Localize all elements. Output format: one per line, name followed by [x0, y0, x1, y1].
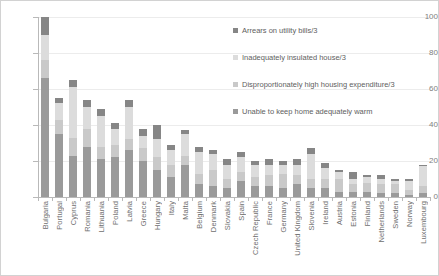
bar-segment [251, 177, 260, 186]
bar-segment [265, 165, 274, 176]
bar-segment [41, 78, 50, 197]
x-tick-label: Netherlands [377, 201, 386, 243]
bar-segment [195, 152, 204, 174]
y-tick-mark [33, 161, 38, 162]
legend-item[interactable]: Unable to keep home adequately warm [233, 108, 438, 116]
bar-segment [69, 87, 78, 137]
bar-segment [83, 147, 92, 197]
bar-segment [181, 134, 190, 156]
bar-germany [279, 161, 288, 197]
bar-segment [139, 161, 148, 197]
bar-segment [97, 109, 106, 116]
legend-item[interactable]: Inadequately insulated house/3 [233, 54, 438, 62]
y-tick-label: 20 [408, 157, 438, 165]
bar-segment [55, 134, 64, 197]
bar-united-kingdom [293, 159, 302, 197]
bar-segment [419, 166, 428, 186]
bar-segment [139, 129, 148, 136]
bar-segment [405, 181, 414, 190]
x-tick-label: Estonia [349, 201, 358, 227]
bar-segment [335, 172, 344, 179]
bar-segment [111, 129, 120, 145]
y-tick-label: 100 [408, 13, 438, 21]
x-tick-label: Ireland [321, 201, 330, 225]
bar-segment [153, 125, 162, 139]
bar-segment [167, 165, 176, 178]
bar-austria [335, 170, 344, 197]
bar-segment [349, 184, 358, 191]
bar-segment [279, 174, 288, 188]
bar-segment [293, 175, 302, 184]
x-tick-label: Slovakia [223, 201, 232, 230]
legend-label: Disproportionately high housing expendit… [242, 81, 395, 89]
bar-segment [111, 145, 120, 158]
x-tick-label: Spain [237, 201, 246, 221]
y-tick-mark [33, 89, 38, 90]
bar-segment [209, 154, 218, 170]
bar-segment [125, 107, 134, 139]
y-tick-mark [33, 53, 38, 54]
legend-item[interactable]: Disproportionately high housing expendit… [233, 81, 438, 89]
x-tick-label: Malta [181, 201, 190, 220]
x-tick-label: Austria [335, 201, 344, 225]
bar-segment [265, 175, 274, 186]
bar-segment [41, 17, 50, 35]
bar-segment [139, 136, 148, 149]
x-tick-label: Lithuania [97, 201, 106, 232]
bar-segment [97, 116, 106, 147]
x-tick-label: Belgium [195, 201, 204, 229]
bar-segment [209, 170, 218, 186]
bar-portugal [55, 98, 64, 197]
bar-netherlands [377, 175, 386, 197]
legend-label: Inadequately insulated house/3 [242, 54, 346, 62]
bar-slovakia [223, 159, 232, 197]
bar-segment [363, 183, 372, 192]
bar-slovenia [307, 148, 316, 197]
chart-legend: Arrears on utility bills/3Inadequately i… [233, 27, 438, 135]
bar-segment [167, 150, 176, 164]
bar-belgium [195, 147, 204, 197]
y-axis-line [38, 17, 39, 198]
bar-segment [97, 147, 106, 160]
x-tick-label: Greece [139, 201, 148, 226]
x-tick-label: Denmark [209, 201, 218, 232]
bar-estonia [349, 172, 358, 197]
bar-segment [279, 188, 288, 197]
x-tick-label: Poland [111, 201, 120, 225]
legend-swatch-icon [233, 55, 238, 60]
bar-ireland [321, 163, 330, 197]
bar-segment [307, 179, 316, 188]
bar-finland [363, 175, 372, 197]
bar-segment [125, 139, 134, 150]
x-tick-label: Portugal [55, 201, 64, 230]
x-tick-label: Finland [363, 201, 372, 226]
bar-segment [41, 35, 50, 60]
bar-segment [237, 172, 246, 181]
legend-swatch-icon [233, 109, 238, 114]
bar-segment [97, 159, 106, 197]
bar-segment [153, 157, 162, 170]
bar-malta [181, 130, 190, 197]
x-tick-label: Sweden [391, 201, 400, 229]
bar-segment [125, 100, 134, 107]
legend-item[interactable]: Arrears on utility bills/3 [233, 27, 438, 35]
bar-segment [293, 165, 302, 176]
y-tick-label: 0 [408, 193, 438, 201]
bar-segment [293, 184, 302, 197]
bar-romania [83, 100, 92, 197]
y-tick-mark [33, 17, 38, 18]
bar-segment [223, 188, 232, 197]
x-tick-label: Bulgaria [41, 201, 50, 229]
bar-poland [111, 123, 120, 197]
bar-segment [321, 188, 330, 197]
bar-segment [391, 184, 400, 193]
bar-segment [237, 157, 246, 171]
bar-segment [55, 120, 64, 134]
bar-segment [195, 184, 204, 197]
bar-segment [83, 107, 92, 129]
bar-segment [279, 165, 288, 174]
x-axis-labels: BulgariaPortugalCyprusRomaniaLithuaniaPo… [38, 201, 430, 275]
bar-segment [349, 172, 358, 179]
x-tick-label: Luxembourg [419, 201, 428, 244]
bar-italy [167, 145, 176, 197]
